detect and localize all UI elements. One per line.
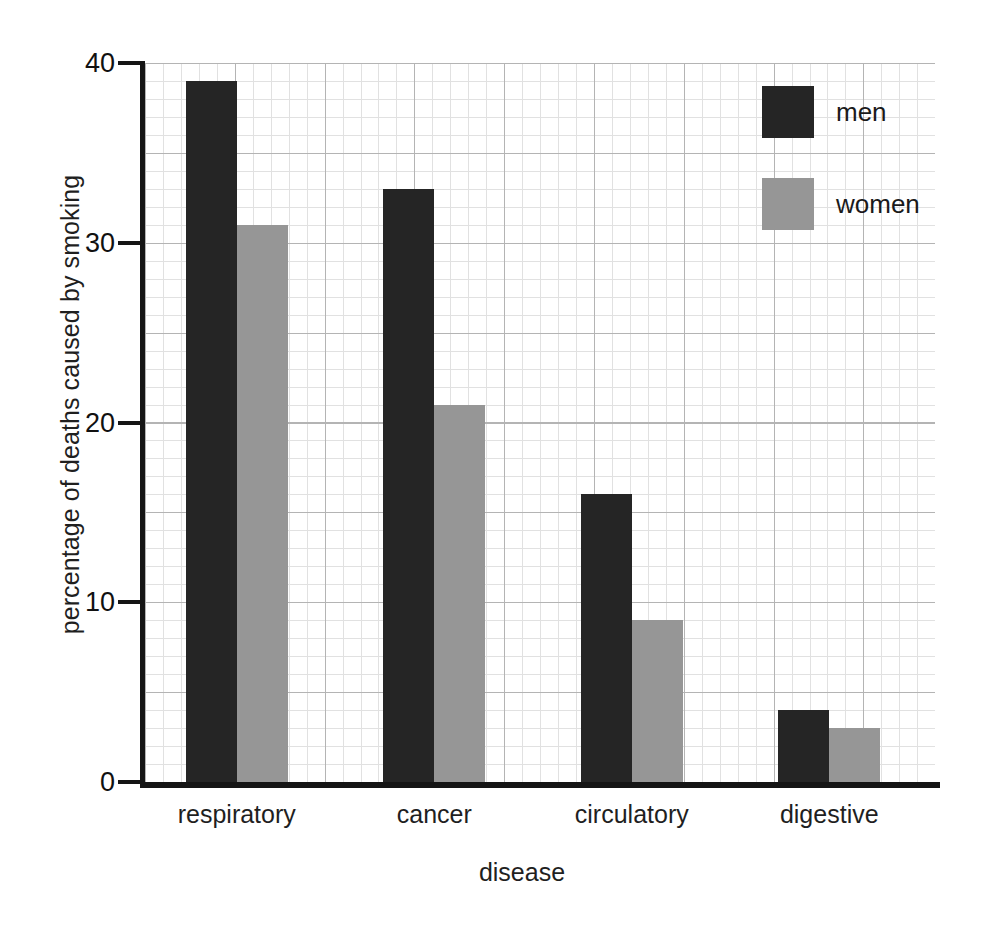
y-tick-label: 30 (45, 227, 115, 258)
legend-label-women: women (836, 189, 920, 220)
x-axis-title: disease (108, 858, 936, 887)
legend-item-men: men (762, 82, 942, 142)
bar-digestive-men (778, 710, 829, 782)
x-axis-line (140, 782, 940, 788)
bar-circulatory-women (632, 620, 683, 782)
legend-label-men: men (836, 97, 887, 128)
y-tick-mark (118, 780, 140, 784)
y-tick-mark (118, 61, 140, 65)
y-tick-mark (118, 241, 140, 245)
legend-swatch-women (762, 178, 814, 230)
bar-respiratory-women (237, 225, 288, 782)
y-axis-labels: 010203040 (20, 0, 115, 927)
x-tick-label-respiratory: respiratory (178, 800, 296, 829)
bar-respiratory-men (186, 81, 237, 782)
bar-cancer-men (383, 189, 434, 782)
bar-digestive-women (829, 728, 880, 782)
legend: men women (762, 82, 942, 266)
bar-circulatory-men (581, 494, 632, 782)
bar-chart: percentage of deaths caused by smoking 0… (0, 0, 986, 927)
y-tick-label: 20 (45, 407, 115, 438)
x-tick-label-cancer: cancer (397, 800, 472, 829)
y-tick-mark (118, 600, 140, 604)
y-tick-mark (118, 421, 140, 425)
y-axis-line (140, 61, 145, 784)
bar-cancer-women (434, 405, 485, 782)
x-tick-label-digestive: digestive (780, 800, 879, 829)
x-tick-label-circulatory: circulatory (575, 800, 689, 829)
legend-swatch-men (762, 86, 814, 138)
y-tick-label: 0 (45, 767, 115, 798)
legend-item-women: women (762, 174, 942, 234)
y-tick-label: 10 (45, 587, 115, 618)
y-tick-label: 40 (45, 48, 115, 79)
